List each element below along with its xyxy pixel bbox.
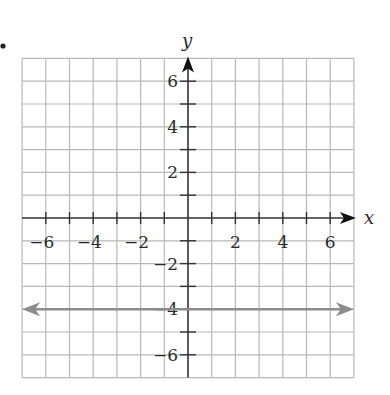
x-tick-label: −6	[29, 232, 54, 252]
y-tick-label: −2	[153, 254, 178, 274]
y-tick-label: 2	[167, 162, 178, 182]
x-tick-label: 6	[325, 232, 336, 252]
y-axis-label: y	[181, 30, 193, 51]
y-tick-label: 6	[167, 71, 178, 91]
x-axis-label: x	[364, 207, 374, 228]
x-tick-label: −4	[77, 232, 102, 252]
y-tick-label: 4	[167, 117, 178, 137]
x-tick-label: 4	[277, 232, 288, 252]
x-tick-label: 2	[230, 232, 241, 252]
y-tick-label: −6	[153, 345, 178, 365]
coordinate-graph: −6−4−2246642−2−4−6 x y	[0, 0, 390, 395]
bullet-dot	[0, 43, 5, 48]
x-tick-label: −2	[124, 232, 149, 252]
